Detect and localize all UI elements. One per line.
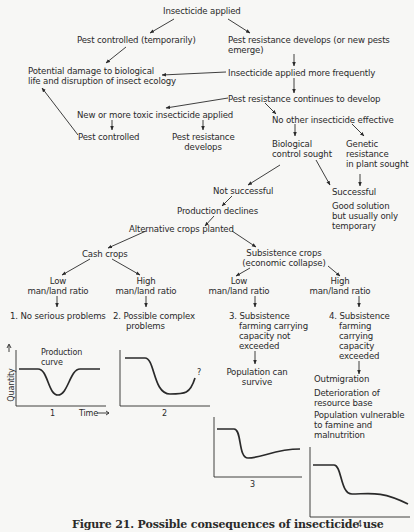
node-text-line: exceeded bbox=[229, 341, 308, 351]
figure-caption: Figure 21. Possible consequences of inse… bbox=[72, 520, 384, 530]
node-text-line: capacity not bbox=[229, 331, 308, 341]
node-text-line: man/land ratio bbox=[205, 286, 273, 296]
node-text-line: Deterioration of bbox=[314, 388, 380, 398]
node-text-line: High bbox=[112, 276, 180, 286]
node-pest-controlled-temporarily: Pest controlled (temporarily) bbox=[77, 35, 196, 45]
node-outcome-2: 2. Possible complex problems bbox=[113, 311, 195, 331]
node-text-line: 4. Subsistence bbox=[329, 311, 390, 321]
node-potential-damage: Potential damage to biological life and … bbox=[28, 66, 176, 86]
graph-1-y-axis-label: Quantity bbox=[7, 367, 17, 403]
graph-label-line: Production bbox=[41, 348, 82, 358]
node-text-line: Low bbox=[24, 276, 92, 286]
node-text-line: malnutrition bbox=[314, 430, 404, 440]
node-text-line: Genetic bbox=[346, 139, 408, 149]
node-text-line: exceeded bbox=[329, 351, 390, 361]
node-text-line: resistance bbox=[346, 149, 408, 159]
node-pest-resistance-short: Pest resistance develops bbox=[172, 132, 234, 152]
node-population-survive: Population can survive bbox=[225, 367, 289, 387]
node-pest-controlled: Pest controlled bbox=[78, 132, 139, 142]
graph-4 bbox=[310, 447, 410, 517]
node-good-solution: Good solution but usually only temporary bbox=[332, 201, 398, 231]
node-insecticide-applied: Insecticide applied bbox=[163, 6, 241, 16]
node-text-line: in plant sought bbox=[346, 159, 408, 169]
node-low-ratio-subsistence: Low man/land ratio bbox=[205, 276, 273, 296]
node-text-line: Population can bbox=[225, 367, 289, 377]
node-outcome-4: 4. Subsistence farming carrying capacity… bbox=[329, 311, 390, 361]
node-low-ratio-cash: Low man/land ratio bbox=[24, 276, 92, 296]
node-production-declines: Production declines bbox=[177, 206, 258, 216]
node-text-line: farming bbox=[329, 321, 390, 331]
node-deterioration: Deterioration of resource base bbox=[314, 388, 380, 408]
node-text-line: farming carrying bbox=[229, 321, 308, 331]
node-text-line: man/land ratio bbox=[112, 286, 180, 296]
node-text-line: Subsistence crops bbox=[236, 248, 332, 258]
node-no-other-effective: No other insecticide effective bbox=[272, 115, 394, 125]
node-outcome-3: 3. Subsistence farming carrying capacity… bbox=[229, 311, 308, 351]
node-text-line: temporary bbox=[332, 221, 398, 231]
node-high-ratio-subsistence: High man/land ratio bbox=[306, 276, 374, 296]
node-text-line: man/land ratio bbox=[306, 286, 374, 296]
graph-3 bbox=[214, 417, 302, 477]
node-text-line: control sought bbox=[272, 149, 332, 159]
graph-2-number: 2 bbox=[162, 409, 167, 419]
node-high-ratio-cash: High man/land ratio bbox=[112, 276, 180, 296]
node-text-line: resource base bbox=[314, 398, 380, 408]
node-text-line: 3. Subsistence bbox=[229, 311, 308, 321]
graph-2-question-mark: ? bbox=[197, 368, 201, 378]
node-text-line: emerge) bbox=[228, 45, 390, 55]
node-population-vulnerable: Population vulnerable to famine and maln… bbox=[314, 410, 404, 440]
graph-3-number: 3 bbox=[250, 480, 255, 490]
node-text-line: life and disruption of insect ecology bbox=[28, 76, 176, 86]
node-text-line: problems bbox=[113, 321, 195, 331]
node-text-line: High bbox=[306, 276, 374, 286]
node-text-line: 2. Possible complex bbox=[113, 311, 195, 321]
node-applied-more-frequently: Insecticide applied more frequently bbox=[228, 68, 375, 78]
graph-1-number: 1 bbox=[50, 409, 55, 419]
node-cash-crops: Cash crops bbox=[82, 249, 128, 259]
node-text-line: Biological bbox=[272, 139, 332, 149]
node-text-line: Pest resistance develops (or new pests bbox=[228, 35, 390, 45]
node-text-line: Pest resistance bbox=[172, 132, 234, 142]
node-text-line: Low bbox=[205, 276, 273, 286]
node-outcome-1: 1. No serious problems bbox=[10, 311, 106, 321]
node-outmigration: Outmigration bbox=[314, 374, 369, 384]
node-subsistence-crops: Subsistence crops (economic collapse) bbox=[236, 248, 332, 268]
node-text-line: but usually only bbox=[332, 211, 398, 221]
node-text-line: Good solution bbox=[332, 201, 398, 211]
node-alternative-crops: Alternative crops planted bbox=[129, 224, 234, 234]
graph-1-curve-label: Production curve bbox=[41, 348, 82, 368]
node-resistance-continues: Pest resistance continues to develop bbox=[228, 94, 380, 104]
node-new-toxic-insecticide: New or more toxic insecticide applied bbox=[77, 110, 233, 120]
node-text-line: to famine and bbox=[314, 420, 404, 430]
node-text-line: capacity bbox=[329, 341, 390, 351]
graph-label-line: curve bbox=[41, 358, 82, 368]
node-text-line: carrying bbox=[329, 331, 390, 341]
node-text-line: Potential damage to biological bbox=[28, 66, 176, 76]
node-biological-control: Biological control sought bbox=[272, 139, 332, 159]
node-text-line: survive bbox=[225, 377, 289, 387]
graph-1-x-axis-label: Time bbox=[79, 409, 98, 419]
node-text-line: develops bbox=[172, 142, 234, 152]
node-not-successful: Not successful bbox=[213, 186, 273, 196]
node-text-line: (economic collapse) bbox=[236, 258, 332, 268]
node-text-line: man/land ratio bbox=[24, 286, 92, 296]
node-successful: Successful bbox=[332, 187, 376, 197]
node-text-line: Population vulnerable bbox=[314, 410, 404, 420]
graph-2 bbox=[120, 350, 210, 406]
node-genetic-resistance: Genetic resistance in plant sought bbox=[346, 139, 408, 169]
node-pest-resistance-develops: Pest resistance develops (or new pests e… bbox=[228, 35, 390, 55]
